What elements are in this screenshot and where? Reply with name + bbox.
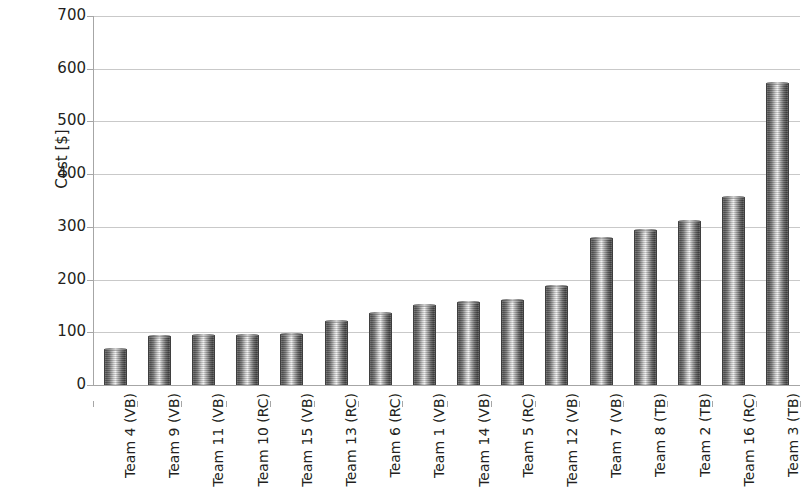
y-axis-label: 500	[6, 113, 86, 128]
x-axis-label: Team 13 (RC)	[343, 393, 359, 499]
x-axis-label: Team 7 (VB)	[608, 393, 624, 499]
bar-slot	[667, 16, 711, 385]
x-axis-label: Team 9 (VB)	[166, 393, 182, 499]
bar[interactable]	[678, 221, 701, 385]
bar-slot	[314, 16, 358, 385]
x-axis-label: Team 14 (VB)	[476, 393, 492, 499]
y-axis-label: 700	[6, 8, 86, 23]
bar[interactable]	[766, 83, 789, 385]
x-axis-label: Team 11 (VB)	[210, 393, 226, 499]
bar-slot	[712, 16, 756, 385]
plot-area: 7006005004003002001000	[93, 16, 800, 385]
bar-slot	[402, 16, 446, 385]
bar[interactable]	[545, 286, 568, 385]
x-axis-label: Team 2 (TB)	[697, 393, 713, 499]
x-axis-label: Team 12 (VB)	[564, 393, 580, 499]
bar-slot	[181, 16, 225, 385]
bar[interactable]	[192, 335, 215, 385]
bar-slot	[756, 16, 800, 385]
bar-slot	[358, 16, 402, 385]
bar-slot	[137, 16, 181, 385]
x-axis-label: Team 6 (RC)	[387, 393, 403, 499]
y-axis-label: 300	[6, 219, 86, 234]
bar-slot	[226, 16, 270, 385]
y-axis-label: 100	[6, 324, 86, 339]
bar[interactable]	[501, 300, 524, 385]
bars-group	[93, 16, 800, 385]
bar-slot	[447, 16, 491, 385]
bar-slot	[491, 16, 535, 385]
x-axis-labels-group: Team 4 (VB)Team 9 (VB)Team 11 (VB)Team 1…	[93, 395, 800, 501]
bar-chart: Cost [$] 7006005004003002001000 Team 4 (…	[0, 0, 802, 501]
bar[interactable]	[104, 349, 127, 385]
x-axis-label: Team 4 (VB)	[122, 393, 138, 499]
bar[interactable]	[236, 335, 259, 385]
bar-slot	[535, 16, 579, 385]
bar-slot	[623, 16, 667, 385]
bar[interactable]	[413, 305, 436, 385]
bar-slot	[93, 16, 137, 385]
bar[interactable]	[369, 313, 392, 385]
y-axis-label: 400	[6, 166, 86, 181]
bar[interactable]	[722, 197, 745, 385]
x-axis-label: Team 3 (TB)	[785, 393, 801, 499]
bar[interactable]	[457, 302, 480, 385]
x-axis-label: Team 5 (RC)	[520, 393, 536, 499]
bar-slot	[579, 16, 623, 385]
bar[interactable]	[590, 238, 613, 385]
bar[interactable]	[280, 334, 303, 385]
x-axis-label: Team 10 (RC)	[255, 393, 271, 499]
x-axis-label: Team 1 (VB)	[431, 393, 447, 499]
y-axis-label: 0	[6, 377, 86, 392]
y-axis-label: 200	[6, 272, 86, 287]
bar-slot	[270, 16, 314, 385]
bar[interactable]	[634, 230, 657, 386]
x-axis-label: Team 8 (TB)	[652, 393, 668, 499]
bar[interactable]	[325, 321, 348, 385]
bar[interactable]	[148, 336, 171, 385]
x-axis-label: Team 16 (RC)	[741, 393, 757, 499]
y-axis-label: 600	[6, 61, 86, 76]
x-axis-label: Team 15 (VB)	[299, 393, 315, 499]
gridline-0	[93, 385, 800, 386]
